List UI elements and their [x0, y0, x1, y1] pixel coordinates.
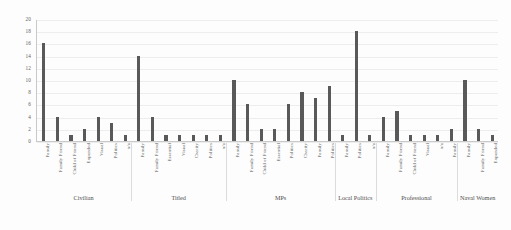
y-tick-label: 12 — [26, 66, 31, 71]
x-tick-label: Essential — [167, 143, 172, 162]
x-tick-label: Family — [344, 143, 349, 157]
x-tick-label: Child of Friend — [262, 143, 267, 175]
x-tick-label: Visual — [99, 143, 104, 156]
x-tick-label: Essential — [276, 143, 281, 162]
group-cell: Titled — [131, 185, 226, 202]
bar — [368, 135, 371, 141]
x-tick-label: Family Friend — [58, 143, 63, 172]
x-tick-label: Politics — [208, 143, 213, 158]
bar — [450, 129, 453, 141]
bar — [83, 129, 86, 141]
x-tick-label: Family — [317, 143, 322, 157]
x-tick-label: Family — [45, 143, 50, 157]
group-label: Professional — [376, 185, 458, 202]
x-tick-label: Expanded — [86, 143, 91, 163]
plot-area — [36, 20, 498, 142]
group-label: Titled — [131, 185, 226, 202]
bar-chart-figure: 02468101214161820 FamilyFamily FriendChi… — [0, 0, 511, 230]
bar — [232, 80, 235, 141]
bar — [491, 135, 494, 141]
group-cell: Local Politics — [335, 185, 376, 202]
bar — [463, 80, 466, 141]
x-tick-label: Family Friend — [398, 143, 403, 172]
y-tick-label: 18 — [26, 30, 31, 35]
y-tick-label: 2 — [28, 127, 31, 132]
bar — [477, 129, 480, 141]
bar — [56, 117, 59, 141]
bar — [124, 135, 127, 141]
bar — [409, 135, 412, 141]
bar — [328, 86, 331, 141]
group-label: Naval Women — [457, 185, 498, 202]
bar — [382, 117, 385, 141]
group-label: Civilian — [36, 185, 131, 202]
y-axis-tick-labels: 02468101214161820 — [0, 20, 34, 142]
bar — [300, 92, 303, 141]
y-tick-label: 10 — [26, 78, 31, 83]
y-tick-label: 4 — [28, 115, 31, 120]
group-cell: Naval Women — [457, 185, 498, 202]
bar — [273, 129, 276, 141]
y-tick-label: 0 — [28, 139, 31, 144]
bar — [178, 135, 181, 141]
group-label: MPs — [226, 185, 335, 202]
group-cell: Civilian — [36, 185, 131, 202]
bar — [219, 135, 222, 141]
bar — [355, 31, 358, 141]
group-cell: MPs — [226, 185, 335, 202]
x-tick-label: Family Friend — [154, 143, 159, 172]
x-tick-label: Visual — [425, 143, 430, 156]
x-axis-tick-labels: FamilyFamily FriendChild of FriendExpand… — [36, 143, 498, 185]
y-tick-label: 16 — [26, 42, 31, 47]
bar — [260, 129, 263, 141]
x-tick-label: Politics — [289, 143, 294, 158]
x-tick-label: Family — [235, 143, 240, 157]
bar — [423, 135, 426, 141]
group-label: Local Politics — [335, 185, 376, 202]
group-cell: Professional — [376, 185, 458, 202]
y-tick-label: 20 — [26, 17, 31, 22]
x-tick-label: Politics — [113, 143, 118, 158]
bar — [205, 135, 208, 141]
y-tick-label: 8 — [28, 91, 31, 96]
x-tick-label: Visual — [181, 143, 186, 156]
bar — [97, 117, 100, 141]
bar — [164, 135, 167, 141]
x-tick-label: n/a — [439, 143, 444, 149]
x-tick-label: Politics — [357, 143, 362, 158]
bar — [110, 123, 113, 141]
bar — [436, 135, 439, 141]
x-tick-label: Child of Friend — [72, 143, 77, 175]
x-tick-label: Child of Friend — [412, 143, 417, 175]
x-tick-label: Expanded — [493, 143, 498, 163]
x-axis-group-labels: CivilianTitledMPsLocal PoliticsProfessio… — [36, 185, 498, 219]
bar-series — [37, 20, 498, 141]
x-tick-label: Family — [140, 143, 145, 157]
x-tick-label: Charity — [194, 143, 199, 158]
x-tick-label: Family — [466, 143, 471, 157]
bar — [246, 104, 249, 141]
bar — [192, 135, 195, 141]
x-tick-label: Family — [385, 143, 390, 157]
bar — [395, 111, 398, 142]
bar — [341, 135, 344, 141]
y-tick-label: 14 — [26, 54, 31, 59]
y-tick-label: 6 — [28, 103, 31, 108]
bar — [314, 98, 317, 141]
bar — [42, 43, 45, 141]
x-tick-label: Charity — [303, 143, 308, 158]
x-tick-label: Family Friend — [249, 143, 254, 172]
bar — [287, 104, 290, 141]
bar — [137, 56, 140, 141]
bar — [151, 117, 154, 141]
x-tick-label: Family Friend — [480, 143, 485, 172]
bar — [69, 135, 72, 141]
